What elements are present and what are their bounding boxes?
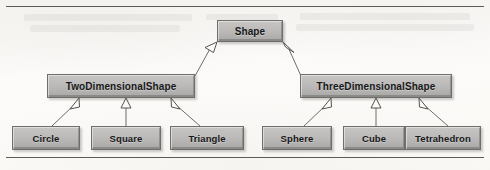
class-box-label: Cube — [362, 133, 386, 144]
bleed-through-ghost-text — [296, 24, 474, 31]
scanned-diagram-page: Shape TwoDimensionalShape ThreeDimension… — [0, 0, 490, 170]
class-box-label: TwoDimensionalShape — [66, 81, 177, 92]
class-box-triangle[interactable]: Triangle — [170, 126, 244, 150]
bleed-through-ghost-text — [30, 25, 180, 32]
class-box-three-dimensional-shape[interactable]: ThreeDimensionalShape — [300, 74, 452, 98]
bleed-through-ghost-text — [300, 13, 470, 20]
page-rule-bottom — [6, 157, 484, 158]
class-box-tetrahedron[interactable]: Tetrahedron — [405, 126, 481, 150]
class-box-label: Sphere — [281, 133, 314, 144]
class-box-sphere[interactable]: Sphere — [262, 126, 332, 150]
class-box-label: Tetrahedron — [415, 133, 471, 144]
page-rule-top — [6, 6, 484, 7]
class-box-square[interactable]: Square — [91, 126, 161, 150]
class-box-shape[interactable]: Shape — [217, 20, 283, 42]
class-box-label: Circle — [32, 133, 59, 144]
class-box-label: Square — [110, 133, 143, 144]
class-box-circle[interactable]: Circle — [12, 126, 80, 150]
class-box-label: ThreeDimensionalShape — [317, 81, 436, 92]
class-box-two-dimensional-shape[interactable]: TwoDimensionalShape — [47, 74, 195, 98]
class-box-cube[interactable]: Cube — [343, 126, 405, 150]
bleed-through-ghost-text — [24, 14, 192, 21]
class-box-label: Shape — [235, 26, 266, 37]
class-box-label: Triangle — [188, 133, 225, 144]
